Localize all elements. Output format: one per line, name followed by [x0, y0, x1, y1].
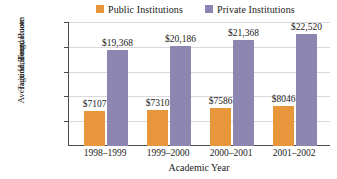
x-axis-tick-label: 2000–2001: [200, 148, 262, 159]
legend-entry-private: Private Institutions: [205, 4, 295, 15]
bar-private: $20,186: [170, 46, 191, 146]
bar-chart-figure: Public Institutions Private Institutions…: [0, 0, 337, 179]
bar-value-label: $7586: [209, 96, 233, 107]
bar-value-label: $8046: [272, 94, 296, 105]
plot-area: $5000$10,000$15,000$20,000$25,000 $7107$…: [68, 22, 330, 146]
bar-value-label: $19,368: [102, 38, 133, 49]
legend-entry-public: Public Institutions: [96, 4, 183, 15]
bar-group: $8046$22,520: [265, 22, 323, 146]
bar-value-label: $21,368: [228, 28, 259, 39]
y-axis-title-line-1: Average Undergraduate: [16, 91, 27, 104]
y-axis-title: Average Undergraduate Tuition, Fees, Roo…: [0, 22, 42, 146]
x-axis-title: Academic Year: [68, 162, 330, 173]
bar-value-label: $22,520: [291, 22, 322, 33]
x-axis-tick-label: 2001–2002: [263, 148, 325, 159]
legend-swatch-private-icon: [205, 5, 213, 13]
x-axis-tick-label: 1998–1999: [74, 148, 136, 159]
bar-private: $21,368: [233, 40, 254, 146]
legend-swatch-public-icon: [96, 5, 104, 13]
bar-value-label: $7107: [83, 99, 107, 110]
bar-public: $8046: [273, 106, 294, 146]
y-axis-title-line-3: and Board: [16, 65, 27, 78]
bar-group: $7586$21,368: [202, 22, 260, 146]
bar-group: $7107$19,368: [76, 22, 134, 146]
bar-private: $19,368: [107, 50, 128, 146]
bar-public: $7310: [147, 110, 168, 146]
legend-label-public: Public Institutions: [108, 4, 183, 15]
bar-groups: $7107$19,368$7310$20,186$7586$21,368$804…: [68, 22, 330, 146]
x-axis-tick-label: 1999–2000: [137, 148, 199, 159]
bar-group: $7310$20,186: [139, 22, 197, 146]
bar-value-label: $20,186: [165, 34, 196, 45]
legend-label-private: Private Institutions: [217, 4, 295, 15]
bar-value-label: $7310: [146, 98, 170, 109]
bar-public: $7586: [210, 108, 231, 146]
bar-private: $22,520: [296, 34, 317, 146]
chart-legend: Public Institutions Private Institutions: [96, 2, 334, 16]
bar-public: $7107: [84, 111, 105, 146]
y-axis-title-line-2: Tuition, Fees, Room: [16, 78, 27, 91]
